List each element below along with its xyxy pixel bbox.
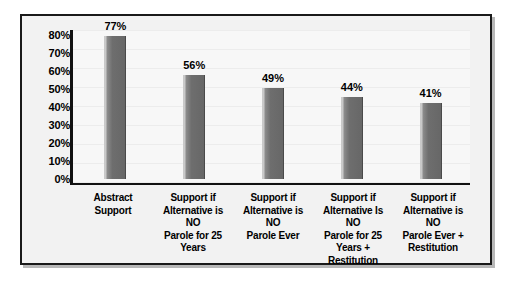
y-axis-tick: 70% [49, 48, 70, 59]
bar[interactable] [420, 103, 442, 179]
x-axis-category-label: AbstractSupport [73, 192, 153, 217]
bar-slot: 56% [155, 30, 234, 179]
bar-slot: 44% [312, 30, 391, 179]
x-axis-category-label: Support ifAlternative is NOParole for 25… [153, 192, 233, 255]
bar-slot: 77% [76, 30, 155, 179]
y-axis-tick: 50% [49, 84, 70, 95]
chart-frame: 80% 70% 60% 50% 40% 30% 20% 10% 0% 77% 5… [20, 14, 492, 265]
y-axis-tick: 20% [49, 138, 70, 149]
y-axis-tick: 30% [49, 120, 70, 131]
bar-value-label: 77% [104, 21, 126, 32]
y-axis-tick: 0% [55, 174, 71, 185]
bar[interactable] [104, 36, 126, 179]
y-axis-tick: 10% [49, 156, 70, 167]
bar-slot: 41% [391, 30, 470, 179]
bar[interactable] [183, 75, 205, 179]
y-axis-tick-labels: 80% 70% 60% 50% 40% 30% 20% 10% 0% [26, 30, 70, 185]
plot-area: 77% 56% 49% 44% 41% [70, 30, 470, 185]
x-axis-category-label: Support ifAlternative is NOParole Ever [233, 192, 313, 242]
y-axis-tick: 40% [49, 102, 70, 113]
bars-row: 77% 56% 49% 44% 41% [76, 30, 470, 179]
bar-value-label: 41% [420, 88, 442, 99]
bar[interactable] [341, 97, 363, 179]
y-axis-tick: 80% [49, 30, 70, 41]
x-axis-category-label: Support ifAlternative Is NOParole for 25… [313, 192, 393, 267]
bar[interactable] [262, 88, 284, 179]
x-axis-category-labels: AbstractSupport Support ifAlternative is… [73, 192, 473, 267]
y-axis-tick: 60% [49, 66, 70, 77]
bar-slot: 49% [234, 30, 313, 179]
bar-value-label: 56% [183, 60, 205, 71]
bar-value-label: 49% [262, 73, 284, 84]
gridline [73, 182, 470, 183]
x-axis-category-label: Support ifAlternative is NOParole Ever +… [393, 192, 473, 255]
bar-value-label: 44% [341, 82, 363, 93]
